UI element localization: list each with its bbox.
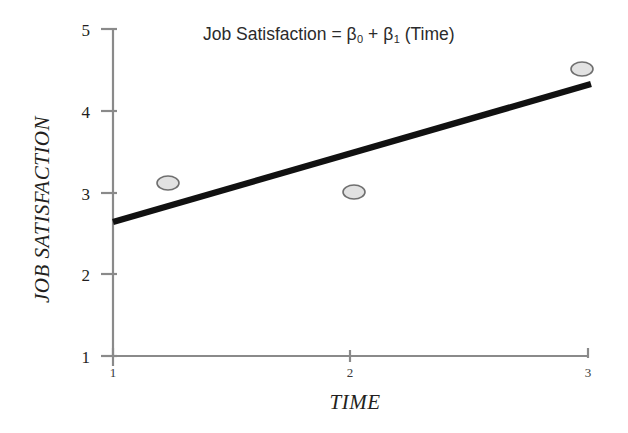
y-tick-label-4: 4 bbox=[60, 104, 90, 121]
y-axis-title: JOB SATISFACTION bbox=[30, 60, 55, 360]
y-axis-ticks bbox=[101, 29, 117, 356]
x-axis-title: TIME bbox=[265, 390, 445, 415]
beta-symbol-1: β bbox=[383, 24, 393, 44]
beta-0-subscript: 0 bbox=[357, 33, 364, 45]
y-tick-label-1: 1 bbox=[60, 349, 90, 366]
chart-container: 5 4 3 2 1 1 2 3 TIME JOB SATISFACTION Jo… bbox=[0, 0, 628, 433]
beta-1-subscript: 1 bbox=[393, 33, 400, 45]
regression-line bbox=[113, 84, 591, 222]
equation-plus: + bbox=[363, 24, 383, 44]
beta-symbol-0: β bbox=[347, 24, 357, 44]
y-tick-label-3: 3 bbox=[60, 186, 90, 203]
x-tick-label-1: 1 bbox=[98, 366, 128, 379]
data-point-marker bbox=[157, 176, 179, 190]
data-point-marker bbox=[571, 62, 593, 76]
equation-annotation: Job Satisfaction = β0 + β1 (Time) bbox=[203, 25, 455, 44]
y-tick-label-2: 2 bbox=[60, 267, 90, 284]
data-point-marker bbox=[343, 185, 365, 199]
equation-prefix: Job Satisfaction = bbox=[203, 24, 347, 44]
x-tick-label-3: 3 bbox=[573, 366, 603, 379]
equation-suffix: (Time) bbox=[400, 24, 455, 44]
x-tick-label-2: 2 bbox=[335, 366, 365, 379]
scatter-plot-svg bbox=[0, 0, 628, 433]
data-point-markers bbox=[157, 62, 593, 199]
y-tick-label-5: 5 bbox=[60, 22, 90, 39]
